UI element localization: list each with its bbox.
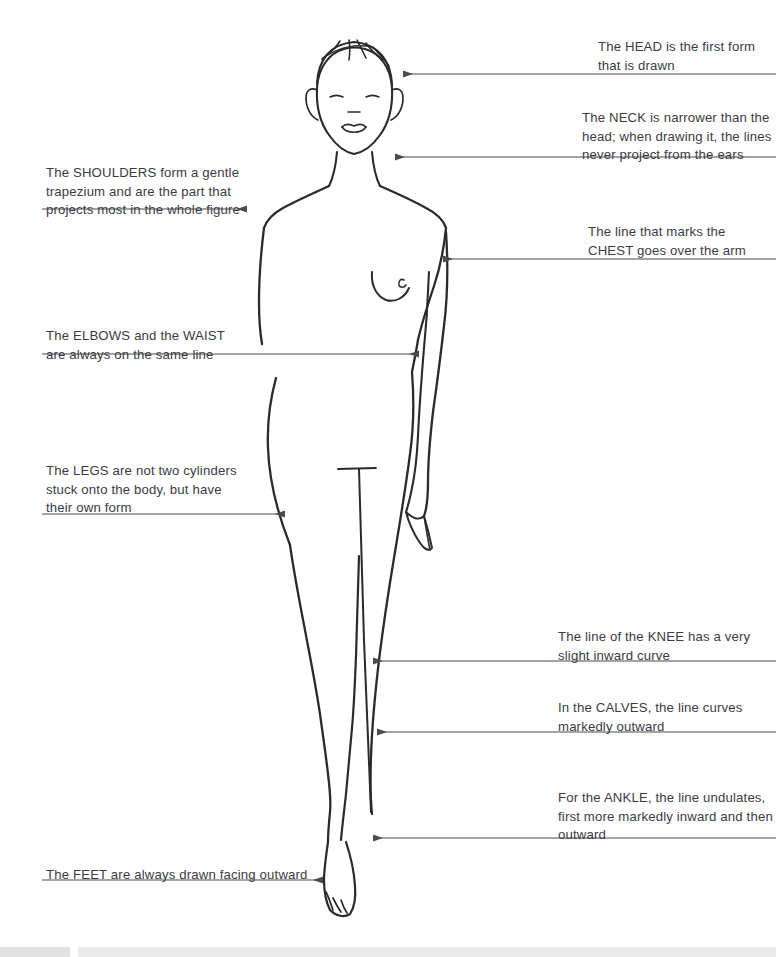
annotation-knee: The line of the KNEE has a very slight i… — [558, 628, 776, 665]
foot-toe-notch-2 — [333, 898, 341, 912]
ear-left — [306, 89, 318, 120]
arm-inner — [406, 272, 429, 512]
annotation-legs: The LEGS are not two cylinders stuck ont… — [46, 462, 266, 518]
annotation-ankle: For the ANKLE, the line undulates, first… — [558, 789, 776, 845]
waist-hip-left — [268, 378, 290, 545]
nipple — [399, 279, 406, 287]
arm-outer — [424, 232, 447, 516]
neck-right — [372, 152, 380, 186]
annotation-elbows-waist: The ELBOWS and the WAIST are always on t… — [46, 327, 256, 364]
footer-band-segment-right — [78, 947, 776, 957]
inner-leg-line — [359, 469, 371, 812]
illustration-page: The HEAD is the first form that is drawn… — [0, 0, 776, 957]
torso-left-contour — [259, 228, 264, 344]
breast-outline — [372, 272, 409, 301]
hair-strand-4 — [366, 43, 383, 60]
annotation-neck: The NECK is narrower than the head; when… — [582, 109, 776, 165]
hair-strand-1 — [322, 41, 340, 59]
annotation-head: The HEAD is the first form that is drawn — [598, 38, 776, 75]
page-footer-band — [0, 947, 776, 957]
neck-left — [329, 152, 337, 186]
eye-left — [330, 96, 343, 98]
hair-strand-5 — [373, 47, 389, 66]
leg-left-inner — [341, 556, 359, 840]
hand-thumb-line — [424, 516, 430, 550]
foot-left-outline — [324, 842, 355, 916]
leg-left-outer — [290, 545, 330, 842]
footer-band-segment-left — [0, 947, 70, 957]
ear-right — [391, 89, 403, 120]
eye-right — [366, 96, 379, 98]
annotation-feet: The FEET are always drawn facing outward — [46, 866, 326, 885]
lips-lower — [342, 127, 366, 132]
lips-upper — [342, 124, 366, 127]
shoulder-left — [264, 186, 329, 228]
torso-right-contour — [418, 228, 446, 340]
waist-right — [412, 340, 418, 372]
annotation-shoulders: The SHOULDERS form a gentle trapezium an… — [46, 164, 266, 220]
shoulder-right — [380, 186, 446, 228]
hair-strand-2 — [349, 40, 350, 60]
leg-right-outer — [371, 372, 414, 814]
hair-outline — [317, 42, 392, 85]
crotch-line-horizontal — [338, 468, 376, 469]
hair-strand-3 — [357, 40, 366, 58]
hair-part-line — [328, 46, 372, 55]
annotation-calves: In the CALVES, the line curves markedly … — [558, 699, 776, 736]
face-outline — [317, 48, 392, 155]
foot-toe-notch-1 — [326, 892, 333, 910]
hand-outline — [406, 512, 432, 550]
foot-toe-notch-3 — [341, 900, 347, 913]
annotation-chest: The line that marks the CHEST goes over … — [588, 223, 776, 260]
